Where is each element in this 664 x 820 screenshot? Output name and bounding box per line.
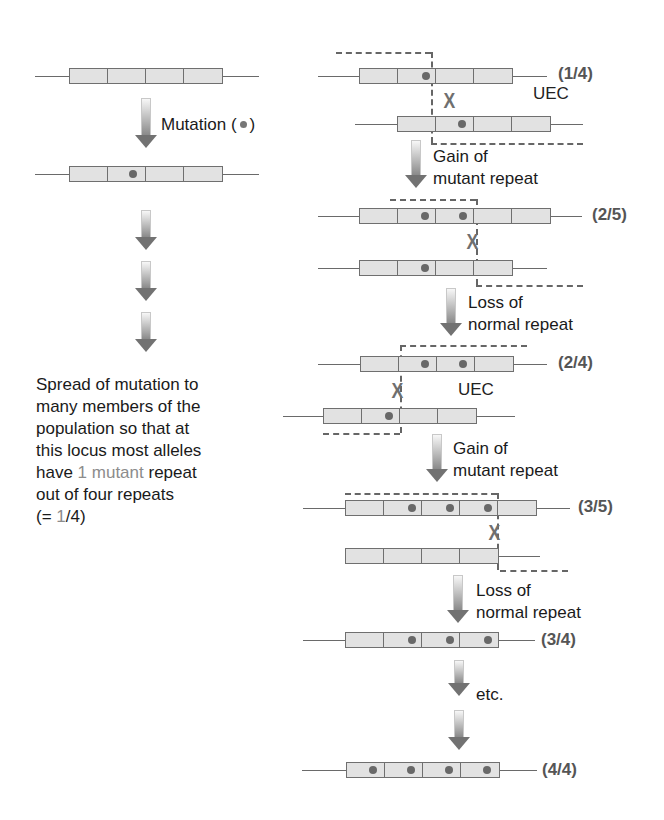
recombination-boundary	[390, 199, 476, 201]
recombination-boundary	[323, 433, 400, 435]
allele	[323, 408, 477, 424]
mutant-ratio: (4/4)	[542, 760, 577, 780]
recombination-boundary	[336, 52, 431, 54]
repeat-mutant	[384, 633, 422, 647]
repeat	[436, 69, 474, 83]
mutation-label: Mutation ()	[161, 114, 255, 135]
crossover-icon: X	[391, 380, 403, 402]
repeat-mutant	[398, 209, 436, 223]
spread-description: Spread of mutation to many members of th…	[36, 374, 201, 528]
repeat	[324, 409, 362, 423]
mutant-ratio: (3/5)	[578, 497, 613, 517]
allele	[397, 116, 551, 132]
repeat-mutant	[460, 633, 498, 647]
repeat-mutant	[108, 167, 146, 181]
flanking-dna	[495, 556, 540, 557]
repeat-mutant	[436, 209, 474, 223]
repeat	[474, 117, 512, 131]
repeat	[384, 549, 422, 563]
allele	[359, 68, 513, 84]
repeat	[438, 409, 476, 423]
allele	[345, 500, 537, 516]
repeat	[400, 409, 438, 423]
repeat	[346, 549, 384, 563]
repeat	[346, 501, 384, 515]
repeat	[146, 167, 184, 181]
uec-label: UEC	[458, 380, 494, 400]
repeat	[361, 357, 399, 371]
repeat	[360, 261, 398, 275]
repeat	[512, 117, 550, 131]
repeat-mutant	[460, 501, 498, 515]
repeat	[460, 549, 498, 563]
allele	[346, 762, 500, 778]
repeat-mutant	[422, 501, 460, 515]
repeat-mutant	[347, 763, 385, 777]
repeat	[474, 69, 512, 83]
crossover-icon: X	[488, 522, 500, 544]
transition-label: Gain ofmutant repeat	[433, 146, 538, 190]
recombination-boundary	[431, 143, 583, 145]
repeat	[146, 69, 184, 83]
repeat	[108, 69, 146, 83]
repeat	[475, 357, 513, 371]
repeat	[422, 549, 460, 563]
repeat-mutant	[384, 501, 422, 515]
repeat	[398, 117, 436, 131]
repeat-mutant	[423, 763, 461, 777]
allele	[360, 356, 514, 372]
mutant-ratio: (2/4)	[558, 353, 593, 373]
recombination-boundary	[400, 345, 527, 347]
repeat	[474, 261, 512, 275]
repeat	[474, 209, 512, 223]
repeat	[70, 167, 108, 181]
repeat	[184, 69, 222, 83]
allele	[345, 632, 499, 648]
allele-normal	[69, 68, 223, 84]
repeat	[346, 633, 384, 647]
crossover-icon: X	[466, 231, 478, 253]
repeat-mutant	[436, 117, 474, 131]
repeat	[360, 69, 398, 83]
repeat	[512, 209, 550, 223]
repeat-mutant	[437, 357, 475, 371]
mutant-ratio: (3/4)	[541, 630, 576, 650]
mutant-ratio: (1/4)	[558, 64, 593, 84]
recombination-boundary	[476, 285, 583, 287]
repeat-mutant	[461, 763, 499, 777]
recombination-boundary	[500, 570, 568, 572]
allele	[345, 548, 499, 564]
repeat	[360, 209, 398, 223]
uec-label: UEC	[533, 84, 569, 104]
repeat-mutant	[362, 409, 400, 423]
recombination-boundary	[345, 493, 497, 495]
transition-label: Loss ofnormal repeat	[476, 580, 581, 624]
transition-label: Loss ofnormal repeat	[468, 292, 573, 336]
repeat-mutant	[422, 633, 460, 647]
repeat	[436, 261, 474, 275]
repeat-mutant	[398, 69, 436, 83]
transition-label: Gain ofmutant repeat	[453, 438, 558, 482]
repeat	[498, 501, 536, 515]
allele	[359, 208, 551, 224]
repeat-mutant	[385, 763, 423, 777]
repeat	[184, 167, 222, 181]
mutant-ratio: (2/5)	[592, 205, 627, 225]
transition-label: etc.	[476, 684, 503, 705]
allele-one-mutant	[69, 166, 223, 182]
repeat	[70, 69, 108, 83]
allele	[359, 260, 513, 276]
crossover-icon: X	[443, 90, 455, 112]
mutant-dot-icon	[240, 121, 247, 128]
repeat-mutant	[399, 357, 437, 371]
repeat-mutant	[398, 261, 436, 275]
